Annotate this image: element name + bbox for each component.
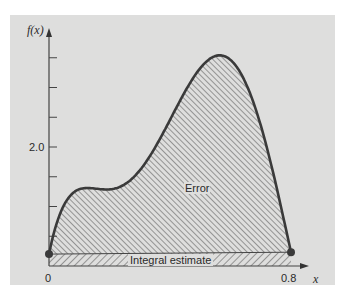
x-tick-label-end: 0.8 [281,272,296,284]
y-axis-label: f(x) [27,23,44,38]
integral-estimate-label: Integral estimate [128,254,213,266]
y-tick-label-2: 2.0 [29,141,44,153]
error-region [49,55,291,254]
x-axis-label: x [313,272,318,287]
x-tick-label-0: 0 [45,272,51,284]
error-label: Error [184,182,210,194]
